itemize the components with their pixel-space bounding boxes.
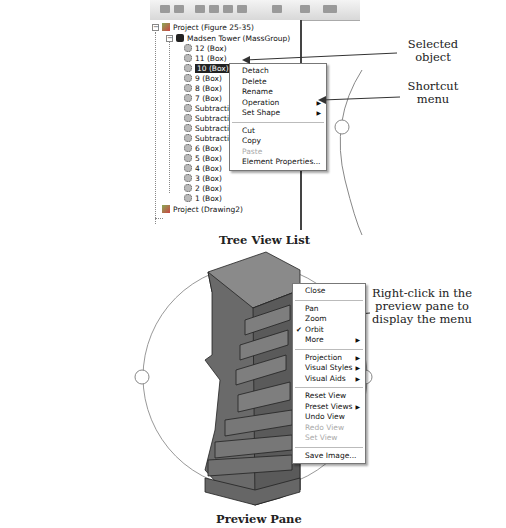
orbit-arc: [340, 70, 362, 235]
menu-separator: [295, 387, 363, 388]
menu-item-undo-view[interactable]: Undo View: [293, 412, 365, 423]
menu-item-reset-view[interactable]: Reset View: [293, 391, 365, 402]
check-icon: ✔: [296, 325, 302, 336]
menu-item-more[interactable]: More▶: [293, 335, 365, 346]
caption-preview-pane: Preview Pane: [216, 512, 302, 526]
caption-tree-view-list: Tree View List: [219, 233, 310, 247]
submenu-arrow-icon: ▶: [355, 335, 360, 346]
menu-item-projection[interactable]: Projection▶: [293, 353, 365, 364]
menu-item-orbit[interactable]: ✔Orbit: [293, 325, 365, 336]
menu-item-save-image[interactable]: Save Image...: [293, 451, 365, 462]
submenu-arrow-icon: ▶: [355, 374, 360, 385]
callout-right-click: Right-click in the preview pane to displ…: [370, 287, 474, 326]
tower-model: [205, 252, 300, 505]
menu-separator: [295, 300, 363, 301]
callout-selected-object: Selected object: [398, 38, 468, 64]
menu-item-pan[interactable]: Pan: [293, 304, 365, 315]
menu-separator: [295, 349, 363, 350]
menu-item-visual-aids[interactable]: Visual Aids▶: [293, 374, 365, 385]
orbit-handle-icon: [335, 120, 349, 134]
menu-item-close[interactable]: Close: [293, 286, 365, 297]
menu-item-preset-views[interactable]: Preset Views▶: [293, 402, 365, 413]
callout-shortcut-menu: Shortcut menu: [398, 80, 468, 106]
submenu-arrow-icon: ▶: [355, 363, 360, 374]
submenu-arrow-icon: ▶: [355, 353, 360, 364]
submenu-arrow-icon: ▶: [355, 402, 360, 413]
menu-item-visual-styles[interactable]: Visual Styles▶: [293, 363, 365, 374]
callout-line: [245, 53, 397, 60]
menu-separator: [295, 447, 363, 448]
preview-context-menu: Close Pan Zoom ✔Orbit More▶ Projection▶ …: [292, 283, 366, 464]
menu-item-zoom[interactable]: Zoom: [293, 314, 365, 325]
callout-line: [322, 97, 400, 100]
orbit-handle-icon: [135, 370, 149, 384]
menu-item-set-view: Set View: [293, 433, 365, 444]
menu-item-redo-view: Redo View: [293, 423, 365, 434]
